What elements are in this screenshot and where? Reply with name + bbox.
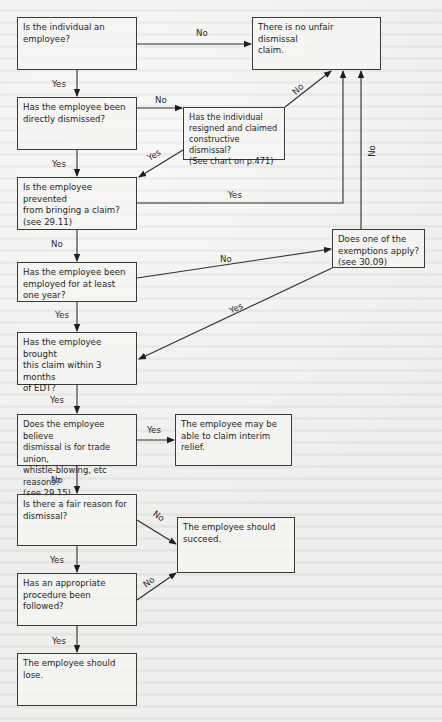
node-three-months: Has the employee brought this claim with… [17,332,137,385]
node-directly-dismissed: Has the employee been directly dismissed… [17,97,137,150]
edge-label-yes: Yes [52,159,66,169]
edge-label-yes: Yes [50,555,64,565]
node-no-claim: There is no unfair dismissal claim. [252,17,381,70]
node-interim-relief: The employee may be able to claim interi… [175,414,292,466]
node-prevented: Is the employee prevented from bringing … [17,177,137,230]
edge-label-yes: Yes [52,79,66,89]
node-one-year: Has the employee been employed for at le… [17,262,137,302]
edge-label-no: No [51,475,63,485]
edge-label-no: No [367,145,377,157]
edge-label-no: No [155,95,167,105]
node-is-employee: Is the individual an employee? [17,17,137,70]
node-trade-union: Does the employee believe dismissal is f… [17,414,137,466]
edge-label-no: No [196,28,208,38]
edge-label-no: No [51,239,63,249]
node-should-lose: The employee should lose. [17,653,137,706]
edge-label-yes: Yes [50,395,64,405]
edge-label-yes: Yes [52,636,66,646]
edge-label-yes: Yes [55,310,69,320]
node-fair-reason: Is there a fair reason for dismissal? [17,494,137,546]
node-exemptions: Does one of the exemptions apply? (see 3… [332,229,425,268]
node-procedure: Has an appropriate procedure been follow… [17,573,137,626]
node-constructive-dismissal: Has the individual resigned and claimed … [183,107,285,160]
edge-label-yes: Yes [228,190,242,200]
node-should-succeed: The employee should succeed. [177,517,295,573]
edge-label-yes: Yes [147,425,161,435]
edge-label-no: No [220,254,232,264]
